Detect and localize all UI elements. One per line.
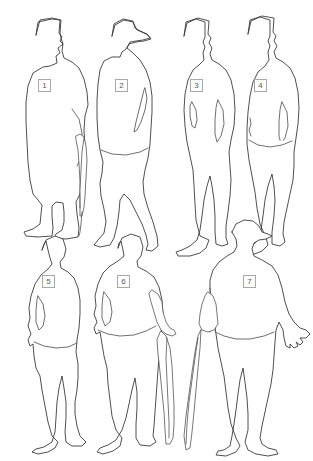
figure-label-4[interactable]: 4 [254,79,267,92]
figure-label-1[interactable]: 1 [38,79,51,92]
figure-1-outline [24,18,88,239]
figure-6-outline [94,234,176,454]
figure-label-6[interactable]: 6 [117,275,130,288]
figure-label-5[interactable]: 5 [42,275,55,288]
figure-outline-canvas [0,0,313,461]
figure-2-outline [94,19,158,251]
figure-5-outline [28,236,86,454]
figure-3-outline [176,18,235,256]
figure-outline-diagram: 1 2 3 4 5 6 7 [0,0,313,461]
figure-7-outline [184,220,310,456]
figure-7-walking-cane [184,292,218,450]
figure-label-2[interactable]: 2 [115,79,128,92]
figure-label-3[interactable]: 3 [190,79,203,92]
figure-label-7[interactable]: 7 [243,275,256,288]
